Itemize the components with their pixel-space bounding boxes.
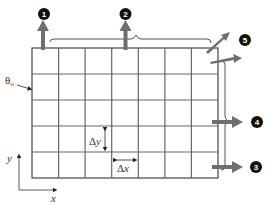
grid xyxy=(32,48,218,178)
delta-y-label: Δy xyxy=(89,135,101,147)
callout-4: 4 xyxy=(251,116,263,128)
callout-3-label: 3 xyxy=(254,163,259,172)
callout-4-label: 4 xyxy=(255,118,260,127)
callout-1: 1 xyxy=(38,8,50,20)
x-axis-label: x xyxy=(50,192,56,204)
callout-2: 2 xyxy=(120,8,132,20)
theta-subscript: o xyxy=(10,80,14,88)
svg-text:θo: θo xyxy=(5,74,14,88)
callout-1-label: 1 xyxy=(42,10,47,19)
right-brace xyxy=(221,61,228,170)
callout-5-label: 5 xyxy=(243,36,248,45)
y-axis-label: y xyxy=(6,152,12,164)
callout-3: 3 xyxy=(250,161,262,173)
delta-y-marker: Δy xyxy=(89,129,105,149)
theta0-label: θo xyxy=(5,74,30,89)
callout-5: 5 xyxy=(239,34,251,46)
top-brace xyxy=(50,35,211,43)
callout-2-label: 2 xyxy=(123,10,128,19)
delta-x-marker: Δx xyxy=(115,160,135,174)
delta-x-label: Δx xyxy=(117,162,129,174)
grid-diagram: 1 2 5 4 3 θo Δy Δx y x xyxy=(0,0,273,205)
flux-arrows xyxy=(37,20,243,173)
